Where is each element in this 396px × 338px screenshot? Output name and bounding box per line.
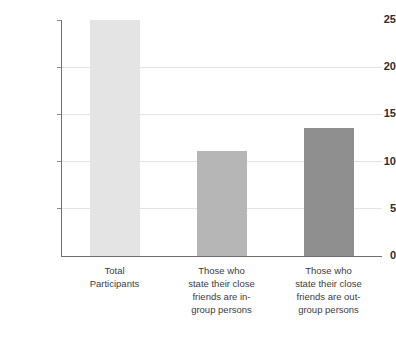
category-label: TotalParticipants	[65, 264, 164, 290]
bar	[90, 20, 140, 256]
category-label-line: Participants	[65, 277, 164, 290]
category-label: Those whostate their closefriends are in…	[172, 264, 271, 316]
category-label-line: group persons	[172, 303, 271, 316]
category-label-line: state their close	[172, 277, 271, 290]
bar	[304, 128, 354, 256]
category-label-line: Those who	[172, 264, 271, 277]
category-label-line: Total	[65, 264, 164, 277]
category-label: Those whostate their closefriends are ou…	[279, 264, 378, 316]
bar	[197, 151, 247, 256]
category-label-line: state their close	[279, 277, 378, 290]
category-label-line: friends are in-	[172, 290, 271, 303]
category-label-line: Those who	[279, 264, 378, 277]
category-label-line: friends are out-	[279, 290, 378, 303]
bar-chart: 0510152025 TotalParticipantsThose whosta…	[0, 0, 396, 338]
bars-layer	[61, 20, 382, 256]
x-axis-line	[61, 256, 382, 257]
x-axis-category-labels: TotalParticipantsThose whostate their cl…	[61, 264, 382, 334]
category-label-line: group persons	[279, 303, 378, 316]
